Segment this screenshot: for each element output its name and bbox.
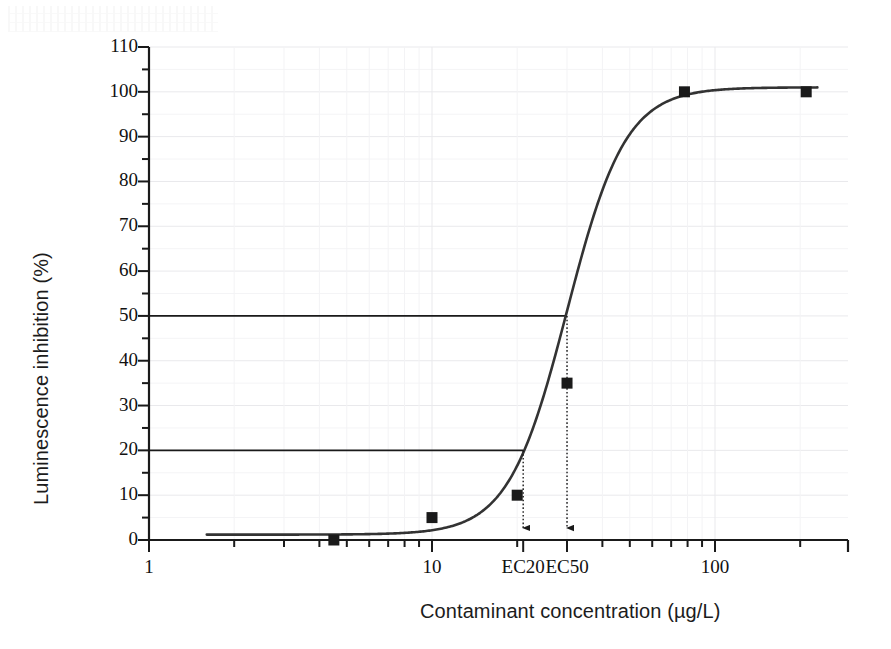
data-point: [679, 86, 690, 97]
y-tick-label: 50: [80, 304, 138, 326]
figure-container: Luminescence inhibition (%) Contaminant …: [0, 0, 891, 649]
x-tick-label: EC50: [517, 556, 617, 578]
y-tick-label: 60: [80, 259, 138, 281]
y-tick-label: 100: [80, 80, 138, 102]
y-tick-label: 20: [80, 438, 138, 460]
y-axis-ticks: [138, 47, 149, 540]
y-tick-label: 80: [80, 169, 138, 191]
data-point: [512, 490, 523, 501]
y-tick-label: 70: [80, 214, 138, 236]
y-tick-label: 40: [80, 349, 138, 371]
data-point: [328, 535, 339, 546]
data-point: [801, 86, 812, 97]
y-tick-label: 110: [80, 35, 138, 57]
gridlines: [149, 47, 848, 540]
y-tick-label: 30: [80, 394, 138, 416]
x-axis-ticks: [149, 540, 848, 552]
fitted-curve: [207, 87, 818, 534]
ec-arrows: [523, 316, 567, 528]
x-tick-label: 100: [665, 556, 765, 578]
x-tick-label: 10: [382, 556, 482, 578]
data-point: [562, 378, 573, 389]
data-point: [427, 512, 438, 523]
x-tick-label: 1: [99, 556, 199, 578]
y-tick-label: 10: [80, 483, 138, 505]
y-tick-label: 90: [80, 125, 138, 147]
y-tick-label: 0: [80, 528, 138, 550]
